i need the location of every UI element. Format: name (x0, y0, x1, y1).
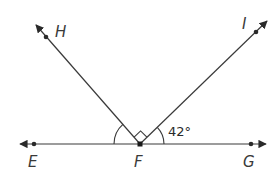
ray-FH (36, 25, 140, 144)
label-H: H (55, 23, 66, 41)
point-I (254, 30, 259, 35)
point-G (249, 142, 254, 147)
label-I: I (242, 15, 247, 33)
label-G: G (243, 153, 255, 171)
angle-diagram: H I E F G 42° (0, 0, 280, 176)
label-E: E (28, 153, 38, 171)
arc-angle-IFG (157, 127, 164, 144)
arc-angle-EFH (114, 124, 123, 144)
label-F: F (134, 153, 143, 171)
point-E (32, 142, 37, 147)
right-angle-marker (134, 131, 147, 137)
ray-FI (140, 21, 267, 144)
angle-IFG-label: 42° (168, 124, 191, 139)
point-H (44, 35, 49, 40)
point-F (138, 142, 143, 147)
